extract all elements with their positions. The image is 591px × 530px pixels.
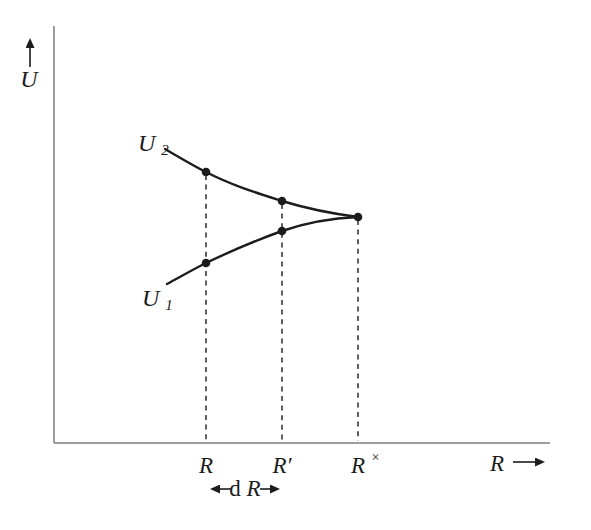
- curve-label-u1-subscript: 1: [165, 297, 173, 313]
- y-axis-label: U: [20, 66, 39, 92]
- interval-label-dR: d R: [229, 476, 260, 501]
- data-point-marker-u1-Rprime: [278, 227, 287, 236]
- interval-label-R: R: [246, 476, 261, 501]
- x-tick-label-Rcross: R ×: [350, 450, 380, 478]
- curve-label-u1-base: U: [142, 285, 161, 311]
- data-point-marker-u2-Rprime: [278, 197, 287, 206]
- x-tick-label-Rcross-superscript: ×: [371, 450, 380, 465]
- curve-u1: [167, 217, 358, 284]
- curve-label-u2-base: U: [138, 130, 157, 156]
- x-axis-label: R: [489, 451, 504, 476]
- interval-label-d: d: [229, 476, 241, 501]
- x-tick-label-Rprime: R′: [271, 453, 292, 478]
- figure-container: U R U 2 U 1 R R′ R ×: [0, 0, 591, 530]
- curve-label-u1: U 1: [142, 285, 173, 313]
- data-point-marker-u2-R: [202, 168, 211, 177]
- x-tick-label-R: R: [198, 453, 213, 478]
- x-tick-label-Rcross-base: R: [350, 453, 365, 478]
- curve-u2: [165, 149, 358, 217]
- data-point-marker-u1-R: [202, 259, 211, 268]
- data-point-marker-convergence: [354, 213, 363, 222]
- curve-label-u2: U 2: [138, 130, 169, 158]
- curve-label-u2-subscript: 2: [161, 142, 169, 158]
- figure-canvas: U R U 2 U 1 R R′ R ×: [0, 0, 591, 530]
